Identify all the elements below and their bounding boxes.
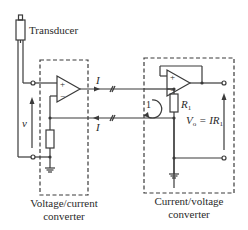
resistor-r1-label: R1 <box>180 98 192 112</box>
transducer-tip-icon <box>19 15 23 20</box>
opamp-right-plus: + <box>170 72 175 82</box>
circuit-diagram: + − + − Transducer v I I 1 R1 Vo = IR1 V… <box>0 0 248 230</box>
output-equation: Vo = IR1 <box>186 114 224 128</box>
opamp-left-plus: + <box>60 79 65 89</box>
current-label-bottom: I <box>95 121 101 133</box>
current-arrow-bottom-icon <box>93 116 99 121</box>
transducer-label: Transducer <box>29 24 78 36</box>
right-box-label-line1: Current/voltage <box>154 195 223 207</box>
resistor-r1-icon <box>170 94 178 112</box>
left-box-label-line2: converter <box>43 210 85 222</box>
current-arrow-top-icon <box>94 87 100 92</box>
transducer-icon <box>16 20 25 40</box>
input-terminal-bottom <box>31 155 35 159</box>
right-box-label-line2: converter <box>168 208 210 220</box>
loop-label: 1 <box>146 99 151 110</box>
voltage-label: v <box>22 117 27 129</box>
opamp-right-minus: − <box>170 85 175 95</box>
left-box-label-line1: Voltage/current <box>30 197 98 209</box>
current-label-top: I <box>95 74 101 86</box>
output-terminal-top <box>222 81 226 85</box>
input-terminal-top <box>31 81 35 85</box>
resistor-left-icon <box>46 130 54 148</box>
output-terminal-bottom <box>222 156 226 160</box>
opamp-left-minus: − <box>60 91 65 101</box>
